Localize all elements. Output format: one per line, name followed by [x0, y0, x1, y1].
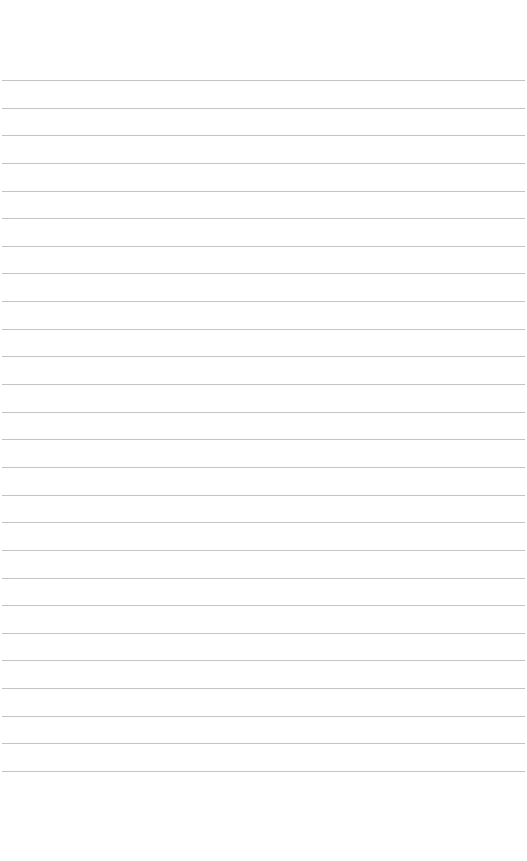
ruled-line [2, 246, 525, 247]
ruled-line [2, 578, 525, 579]
ruled-line [2, 329, 525, 330]
ruled-line [2, 467, 525, 468]
ruled-line [2, 688, 525, 689]
ruled-line [2, 356, 525, 357]
ruled-line [2, 660, 525, 661]
ruled-line [2, 163, 525, 164]
ruled-line [2, 633, 525, 634]
ruled-line [2, 108, 525, 109]
ruled-line [2, 743, 525, 744]
ruled-line [2, 605, 525, 606]
ruled-line [2, 439, 525, 440]
ruled-line [2, 273, 525, 274]
ruled-line [2, 191, 525, 192]
ruled-line [2, 771, 525, 772]
ruled-line [2, 384, 525, 385]
lined-paper-page [0, 0, 527, 861]
ruled-line [2, 412, 525, 413]
ruled-line [2, 80, 525, 81]
ruled-line [2, 218, 525, 219]
ruled-line [2, 135, 525, 136]
ruled-line [2, 301, 525, 302]
ruled-line [2, 550, 525, 551]
ruled-line [2, 495, 525, 496]
ruled-line [2, 522, 525, 523]
ruled-line [2, 716, 525, 717]
